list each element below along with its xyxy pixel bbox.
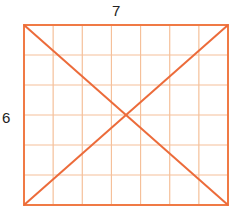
grid-diagram <box>0 0 232 214</box>
